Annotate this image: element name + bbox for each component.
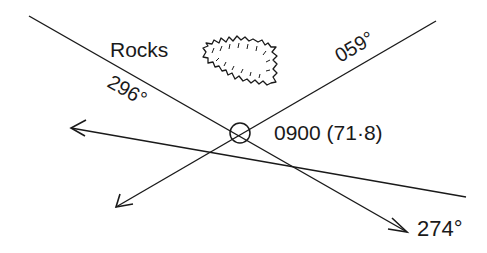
bearing-label-059: 059° (331, 27, 378, 67)
bearing-label-274: 274° (417, 216, 463, 241)
bearing-line-274 (71, 120, 466, 197)
arrowhead-icon (388, 218, 407, 232)
rocks-icon (203, 36, 277, 85)
bearing-label-296: 296° (104, 70, 151, 110)
position-fix-diagram: Rocks 296° 059° 0900 (71·8) 274° (0, 0, 487, 253)
fix-time-log-label: 0900 (71·8) (274, 121, 383, 144)
rocks-label: Rocks (110, 38, 168, 61)
